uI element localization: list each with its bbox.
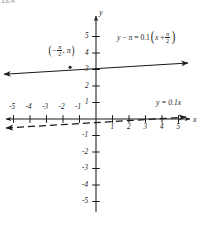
point-annotation: (−π2, π)	[48, 44, 75, 58]
x-tick-label-4: 4	[160, 124, 164, 131]
point-marker	[69, 66, 72, 69]
y-tick-label--3: -3	[82, 165, 88, 172]
eq-fraction-denominator: 2	[165, 37, 170, 44]
y-tick-label--5: -5	[82, 198, 88, 205]
eq-fraction: π2	[165, 31, 170, 45]
point-x-fraction: π2	[57, 44, 62, 58]
x-tick-label--3: -3	[42, 104, 48, 111]
eq-equals: =	[134, 33, 138, 42]
x-tick-label--1: -1	[75, 104, 81, 111]
point-x-denominator: 2	[57, 50, 62, 57]
x-axis-label: x	[193, 116, 197, 124]
x-tick-label-5: 5	[177, 124, 181, 131]
x-tick-label--2: -2	[59, 104, 65, 111]
y-tick-label-5: 5	[85, 33, 89, 40]
x-tick-label-1: 1	[111, 124, 115, 131]
point-comma: ,	[63, 46, 65, 55]
point-y-value: π	[67, 46, 71, 55]
y-tick-label--4: -4	[82, 182, 88, 189]
y-tick-label-2: 2	[85, 83, 89, 90]
eq-plus: +	[160, 33, 164, 42]
coordinate-plane	[0, 0, 208, 225]
dashed-line-equation: y = 0.1x	[156, 99, 181, 107]
solid-line-equation: y − π = 0.1(x +π2)	[117, 31, 176, 45]
eq-pi: π	[128, 33, 132, 42]
eq-x: x	[155, 33, 158, 42]
graph-figure: 13.4	[0, 0, 208, 225]
y-tick-label-3: 3	[85, 66, 89, 73]
point-minus: −	[52, 46, 57, 55]
x-tick-label-3: 3	[144, 124, 148, 131]
eq-y: y	[117, 33, 120, 42]
x-tick-label--5: -5	[9, 104, 15, 111]
eq-minus: −	[122, 33, 126, 42]
y-tick-label-4: 4	[85, 50, 89, 57]
eq-coefficient: 0.1	[140, 33, 150, 42]
y-tick-label-1: 1	[85, 99, 89, 106]
x-tick-label--4: -4	[26, 104, 32, 111]
y-tick-label--1: -1	[82, 132, 88, 139]
y-tick-label--2: -2	[82, 149, 88, 156]
y-axis-label: y	[99, 9, 103, 17]
x-tick-label-2: 2	[127, 124, 131, 131]
